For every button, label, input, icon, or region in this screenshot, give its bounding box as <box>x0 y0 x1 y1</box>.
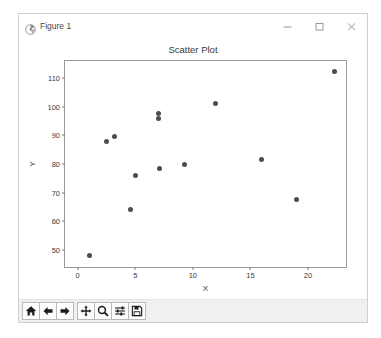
scatter-point <box>182 162 187 167</box>
window-title: Figure 1 <box>40 22 71 31</box>
title-bar[interactable]: Figure 1 <box>19 14 367 38</box>
maximize-button[interactable] <box>303 14 335 38</box>
y-tick-label: 100 <box>47 102 65 111</box>
y-tick-label: 60 <box>52 217 65 226</box>
figure-window: Figure 1 Scatter Plot 506070809010011005… <box>18 13 368 323</box>
scatter-point <box>133 173 138 178</box>
chart-title: Scatter Plot <box>19 44 367 55</box>
back-button[interactable] <box>39 302 57 320</box>
y-tick-label: 80 <box>52 160 65 169</box>
scatter-point <box>87 253 92 258</box>
x-tick-label: 15 <box>246 267 254 280</box>
navigation-toolbar <box>19 299 367 322</box>
scatter-point <box>259 157 264 162</box>
scatter-point <box>112 134 117 139</box>
x-tick-label: 20 <box>304 267 312 280</box>
plot-area[interactable]: 506070809010011005101520 <box>64 60 347 268</box>
close-button[interactable] <box>335 14 367 38</box>
configure-subplots-button[interactable] <box>111 302 129 320</box>
y-tick-label: 50 <box>52 245 65 254</box>
x-tick-label: 10 <box>189 267 197 280</box>
x-tick-label: 5 <box>133 267 137 280</box>
screen: Figure 1 Scatter Plot 506070809010011005… <box>0 0 381 338</box>
scatter-point <box>104 139 109 144</box>
scatter-point <box>213 101 218 106</box>
toolbar-buttons <box>22 302 145 320</box>
y-axis-label: Y <box>28 161 37 166</box>
home-button[interactable] <box>22 302 40 320</box>
x-axis-label: X <box>64 284 347 293</box>
x-tick-label: 0 <box>76 267 80 280</box>
save-button[interactable] <box>128 302 146 320</box>
window-controls <box>271 14 367 38</box>
y-tick-label: 110 <box>48 74 65 83</box>
minimize-button[interactable] <box>271 14 303 38</box>
zoom-button[interactable] <box>94 302 112 320</box>
title-bar-left: Figure 1 <box>25 14 71 38</box>
matplotlib-icon <box>25 21 36 32</box>
scatter-point <box>332 69 337 74</box>
y-tick-label: 70 <box>52 188 65 197</box>
scatter-point <box>294 197 299 202</box>
pan-button[interactable] <box>77 302 95 320</box>
y-tick-label: 90 <box>52 131 65 140</box>
scatter-point <box>128 207 133 212</box>
scatter-point <box>157 166 162 171</box>
scatter-point <box>156 116 161 121</box>
forward-button[interactable] <box>56 302 74 320</box>
figure-canvas[interactable]: Scatter Plot 506070809010011005101520 X … <box>19 38 367 301</box>
